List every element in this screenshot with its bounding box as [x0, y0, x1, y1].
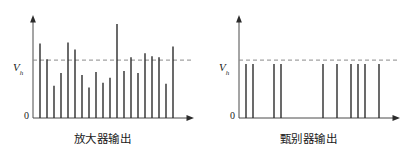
y-axis-arrowhead — [30, 15, 36, 23]
pulse-group — [246, 64, 379, 118]
pulse-group — [40, 24, 173, 118]
panel-amplifier-output: Vh 0 放大器输出 — [0, 0, 205, 153]
caption-discriminator-output: 甄别器输出 — [206, 130, 411, 146]
y-axis-label: Vh — [219, 62, 229, 76]
plot-amplifier-output: Vh 0 — [0, 0, 205, 130]
caption-amplifier-output: 放大器输出 — [0, 130, 205, 146]
x-axis-arrowhead — [393, 115, 401, 121]
origin-label: 0 — [230, 111, 235, 121]
panel-discriminator-output: Vh 0 甄别器输出 — [206, 0, 411, 153]
pulse-height-figure: Vh 0 放大器输出 Vh 0 甄别器输出 — [0, 0, 411, 153]
origin-label: 0 — [24, 111, 29, 121]
x-axis-arrowhead — [187, 115, 195, 121]
discriminator-output-svg — [206, 0, 411, 130]
y-axis-label: Vh — [13, 62, 23, 76]
y-axis-arrowhead — [236, 15, 242, 23]
plot-discriminator-output: Vh 0 — [206, 0, 411, 130]
y-axis-label-subscript: h — [226, 69, 230, 77]
amplifier-output-svg — [0, 0, 205, 130]
y-axis-label-subscript: h — [20, 69, 24, 77]
